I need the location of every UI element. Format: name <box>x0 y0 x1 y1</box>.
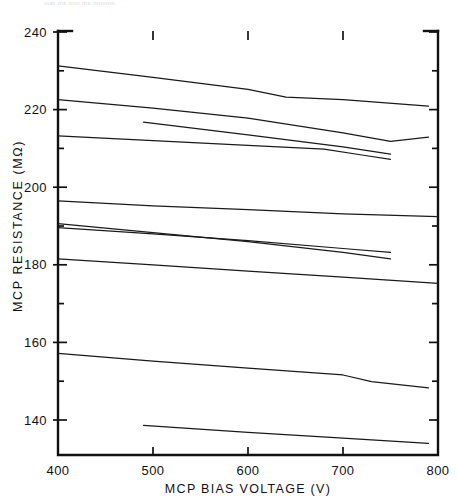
x-tick-label: 500 <box>142 463 165 478</box>
x-tick-label: 400 <box>47 463 70 478</box>
data-curve <box>58 136 391 159</box>
data-curve <box>144 425 429 443</box>
chart-canvas: 140160180200220240400500600700800 MCP RE… <box>0 0 457 502</box>
axis-ticks-layer <box>53 31 438 455</box>
y-tick-label: 200 <box>24 180 47 195</box>
x-tick-label: 700 <box>332 463 355 478</box>
axis-labels-layer: 140160180200220240400500600700800 <box>24 25 449 479</box>
x-tick-label: 600 <box>237 463 260 478</box>
data-curve <box>58 66 429 106</box>
data-curves-layer <box>58 66 438 444</box>
data-curve <box>58 259 438 283</box>
data-curve <box>58 224 391 259</box>
y-tick-label: 240 <box>24 25 47 40</box>
data-curve <box>58 100 429 142</box>
data-curve <box>58 228 391 253</box>
x-axis-title: MCP BIAS VOLTAGE (V) <box>165 482 331 496</box>
data-curve <box>144 122 391 154</box>
data-curve <box>58 201 438 217</box>
y-tick-label: 160 <box>24 335 47 350</box>
y-tick-label: 140 <box>24 413 47 428</box>
axis-frame <box>58 31 438 455</box>
y-tick-label: 180 <box>24 257 47 272</box>
data-curve <box>58 353 429 388</box>
y-axis-title: MCP RESISTANCE (MΩ) <box>11 140 25 312</box>
x-tick-label: 800 <box>427 463 450 478</box>
figure-root: mat ms mm ms mmmm 1401601802002202404005… <box>0 0 457 502</box>
y-tick-label: 220 <box>24 102 47 117</box>
axis-frame-layer <box>58 31 438 455</box>
